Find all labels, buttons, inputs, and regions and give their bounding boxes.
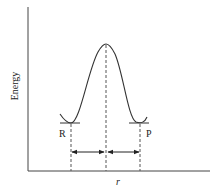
energy-curve xyxy=(60,44,147,123)
energy-diagram: R P r Energy xyxy=(0,0,219,193)
y-axis-label: Energy xyxy=(9,72,20,101)
reactant-label: R xyxy=(59,128,66,139)
product-label: P xyxy=(146,128,152,139)
x-axis-label: r xyxy=(116,176,120,187)
